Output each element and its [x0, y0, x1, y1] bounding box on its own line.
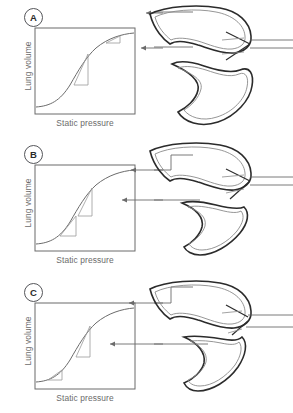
- tangent-triangle-lower-a: [74, 54, 88, 85]
- panel-b: B Lung volume Static pressure: [0, 137, 293, 274]
- panel-label-a: A: [24, 8, 43, 27]
- lower-lung-outline-a: [172, 62, 253, 125]
- lung-diagram-c: [138, 275, 293, 412]
- tangent-triangle-upper-b: [78, 188, 92, 216]
- lung-diagram-a: [138, 0, 293, 137]
- y-axis-label-a: Lung volume: [23, 30, 33, 102]
- arrow-head-lower-c: [110, 342, 115, 347]
- leader-upper-b: [154, 155, 193, 170]
- y-axis-label-b: Lung volume: [23, 167, 33, 239]
- bronchus-upper-a: [226, 32, 250, 44]
- lower-lung-inner-b: [188, 206, 243, 250]
- arrow-head-upper-b: [131, 168, 136, 173]
- y-axis-label-c: Lung volume: [23, 305, 33, 377]
- panel-label-b: B: [24, 145, 43, 164]
- leader-upper-c: [154, 287, 193, 303]
- lung-diagram-b: [138, 137, 293, 274]
- bronchus-lower-a: [226, 44, 250, 60]
- bronchus-upper-b: [226, 169, 250, 181]
- panel-label-c: C: [24, 283, 43, 302]
- arrow-head-upper-c: [129, 301, 134, 306]
- tangent-triangle-lower-c: [48, 370, 62, 380]
- panel-a: A Lung volume Static pressure: [0, 0, 293, 137]
- tangent-triangle-lower-b: [60, 216, 76, 236]
- tangent-triangle-upper-c: [76, 326, 90, 357]
- panel-c: C Lung volume Static pressure: [0, 275, 293, 412]
- lower-lung-inner-c: [188, 341, 241, 386]
- arrow-head-lower-b: [122, 198, 127, 203]
